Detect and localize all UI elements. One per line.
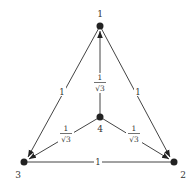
edge-label-3-2: 1 [95,157,100,167]
fraction-numerator: 1 [132,124,137,133]
fraction-denominator: √3 [129,135,139,144]
fraction-denominator: √3 [95,84,105,93]
node-label-4: 4 [97,124,103,134]
node-3 [21,159,28,166]
edge-label-4-3: 1 √3 [58,124,74,145]
edge-label-4-1: 1 √3 [92,73,108,93]
edge-label-4-2: 1 √3 [126,124,142,145]
node-2 [171,159,178,166]
node-label-1: 1 [97,9,103,19]
fraction-numerator: 1 [98,73,103,82]
fraction-denominator: √3 [61,135,71,144]
edge-label-1-3: 1 [59,87,64,97]
edge-label-1-2: 1 [135,87,140,97]
node-label-3: 3 [15,170,21,180]
node-4 [97,114,104,121]
graph-diagram: 1 2 3 4 1 1 1 1 √3 1 √3 1 √3 [0,0,195,187]
fraction-numerator: 1 [64,124,69,133]
node-label-2: 2 [180,170,186,180]
node-1 [97,23,104,30]
